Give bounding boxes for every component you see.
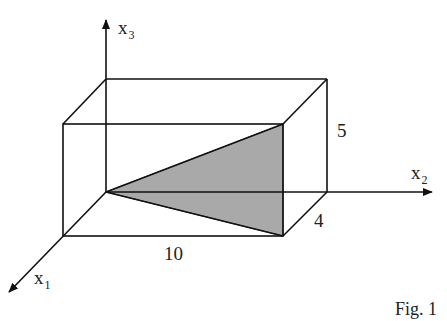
length-label: 10 (164, 244, 183, 263)
figure-caption: Fig. 1 (395, 300, 437, 318)
x2-label-text: x (411, 162, 421, 183)
depth-label: 4 (314, 211, 324, 230)
x1-label-text: x (34, 267, 44, 288)
x1-label-sub: 1 (45, 278, 51, 292)
x3-axis-label: x3 (118, 18, 135, 37)
x2-axis-label: x2 (411, 163, 428, 182)
x3-label-sub: 3 (129, 28, 135, 42)
x1-axis-label: x1 (34, 268, 51, 287)
x2-label-sub: 2 (422, 173, 428, 187)
depth-edge-top-left (63, 79, 106, 124)
x1-axis (9, 192, 106, 292)
shaded-triangle (106, 124, 283, 236)
depth-edge-top-right (283, 79, 327, 124)
height-label: 5 (337, 121, 347, 140)
x3-label-text: x (118, 17, 128, 38)
box-diagram (0, 0, 447, 321)
